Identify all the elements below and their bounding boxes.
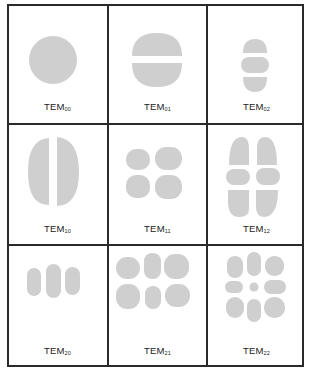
mode-label-tem02: TEM02	[207, 101, 306, 112]
mode-label-tem01: TEM01	[108, 101, 207, 112]
mode-cell-tem10: TEM10	[8, 125, 107, 245]
mode-cell-tem01: TEM01	[108, 5, 207, 125]
mode-label-tem00: TEM00	[8, 101, 107, 112]
mode-label-tem22: TEM22	[207, 345, 306, 356]
mode-label-tem21: TEM21	[108, 345, 207, 356]
mode-cell-tem21: TEM21	[108, 246, 207, 366]
mode-cell-tem11: TEM11	[108, 125, 207, 245]
mode-label-tem20: TEM20	[8, 345, 107, 356]
mode-cell-tem12: TEM12	[207, 125, 306, 245]
mode-label-tem10: TEM10	[8, 223, 107, 234]
mode-cell-tem22: TEM22	[207, 246, 306, 366]
mode-cell-tem20: TEM20	[8, 246, 107, 366]
mode-label-tem12: TEM12	[207, 223, 306, 234]
mode-cell-tem02: TEM02	[207, 5, 306, 125]
mode-cell-tem00: TEM00	[8, 5, 107, 125]
mode-label-tem11: TEM11	[108, 223, 207, 234]
